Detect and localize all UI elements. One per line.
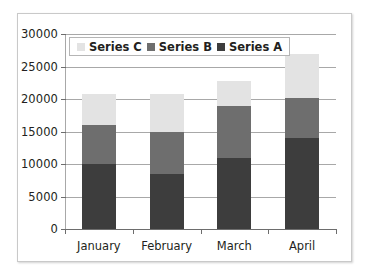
legend-label: Series C (89, 40, 142, 54)
gridline-30000 (65, 34, 336, 35)
y-tick-mark-20000 (61, 99, 66, 100)
x-axis-tick-label: February (141, 239, 192, 253)
legend-label: Series A (229, 40, 282, 54)
bar-segment[interactable] (82, 164, 116, 229)
legend-swatch-icon (77, 43, 85, 51)
y-tick-mark-15000 (61, 132, 66, 133)
legend-swatch-icon (217, 43, 225, 51)
plot-area: 050001000015000200002500030000 JanuaryFe… (65, 34, 336, 229)
bar-segment[interactable] (150, 174, 184, 229)
y-tick-mark-25000 (61, 67, 66, 68)
y-tick-mark-30000 (61, 34, 66, 35)
bar-segment[interactable] (150, 132, 184, 174)
y-axis-tick-label: 10000 (21, 157, 58, 171)
x-tick-mark (133, 229, 134, 234)
bar-segment[interactable] (217, 158, 251, 230)
y-axis-tick-label: 5000 (28, 190, 58, 204)
legend-item[interactable]: Series A (217, 40, 282, 54)
x-axis-tick-label: April (289, 239, 315, 253)
chart-frame: 050001000015000200002500030000 JanuaryFe… (17, 13, 352, 262)
y-axis-tick-label: 30000 (21, 27, 58, 41)
y-tick-mark-5000 (61, 197, 66, 198)
y-tick-mark-10000 (61, 164, 66, 165)
y-axis-tick-label: 15000 (21, 125, 58, 139)
legend-swatch-icon (147, 43, 155, 51)
y-axis-tick-label: 20000 (21, 92, 58, 106)
legend-item[interactable]: Series C (77, 40, 142, 54)
bar-segment[interactable] (82, 125, 116, 164)
stacked-bar[interactable] (217, 81, 251, 229)
stacked-bar[interactable] (285, 54, 319, 229)
x-axis-tick-label: March (217, 239, 252, 253)
x-tick-mark (268, 229, 269, 234)
bar-segment[interactable] (217, 106, 251, 158)
stacked-bar[interactable] (82, 94, 116, 229)
stacked-bar[interactable] (150, 94, 184, 229)
chart-legend: Series CSeries BSeries A (69, 37, 290, 56)
x-axis-tick-label: January (77, 239, 121, 253)
chart-canvas: 050001000015000200002500030000 JanuaryFe… (18, 14, 353, 263)
legend-item[interactable]: Series B (147, 40, 212, 54)
x-tick-mark (336, 229, 337, 234)
bar-segment[interactable] (82, 94, 116, 125)
bar-segment[interactable] (217, 81, 251, 106)
bar-segment[interactable] (285, 54, 319, 98)
bar-segment[interactable] (285, 98, 319, 138)
bar-segment[interactable] (285, 138, 319, 229)
y-axis-tick-label: 25000 (21, 60, 58, 74)
x-tick-mark (201, 229, 202, 234)
y-axis-tick-label: 0 (51, 222, 58, 236)
legend-label: Series B (159, 40, 212, 54)
x-tick-mark (65, 229, 66, 234)
bar-segment[interactable] (150, 94, 184, 131)
